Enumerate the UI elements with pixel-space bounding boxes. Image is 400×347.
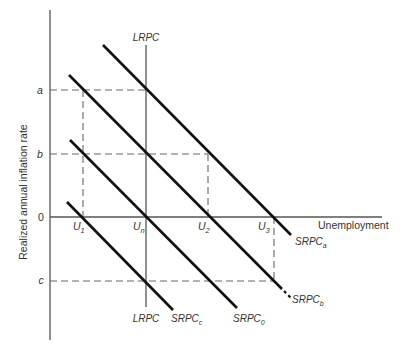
label-u2: U2 xyxy=(198,220,211,235)
tick-a: a xyxy=(37,84,43,96)
srpc-0-line xyxy=(70,140,237,308)
label-lrpc-top: LRPC xyxy=(133,32,160,43)
label-srpc-0: SRPC0 xyxy=(233,313,265,326)
label-srpc-a: SRPCa xyxy=(295,236,327,249)
srpc-b-line xyxy=(69,75,282,289)
x-axis-label: Unemployment xyxy=(318,219,389,231)
srpc-b-dashed-extension xyxy=(284,291,291,298)
srpc-a-line xyxy=(103,45,291,235)
label-u3: U3 xyxy=(258,220,271,235)
tick-c: c xyxy=(38,274,44,286)
label-srpc-b: SRPCb xyxy=(292,294,324,307)
phillips-curve-diagram: Realized annual inflation rate a b 0 c U… xyxy=(0,0,400,347)
label-u1: U1 xyxy=(73,220,85,235)
label-lrpc-bottom: LRPC xyxy=(133,313,160,324)
label-srpc-c: SRPCc xyxy=(171,313,203,326)
srpc-curves xyxy=(67,45,291,310)
label-un: Un xyxy=(133,220,145,235)
tick-b: b xyxy=(37,148,43,160)
tick-zero: 0 xyxy=(38,211,44,223)
y-axis-label: Realized annual inflation rate xyxy=(17,124,29,260)
srpc-c-line xyxy=(67,202,173,310)
